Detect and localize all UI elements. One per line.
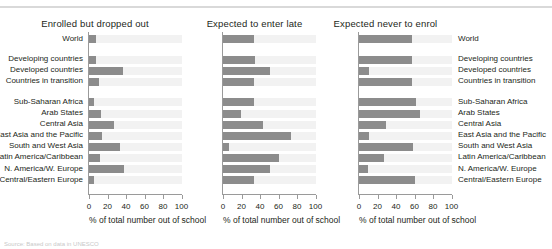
category-label: Central Asia — [458, 120, 501, 128]
x-axis-tick-label: 100 — [309, 202, 322, 211]
x-axis-tick-label: 60 — [410, 202, 419, 211]
bar — [223, 132, 291, 140]
bar — [89, 98, 94, 106]
category-label: South and West Asia — [458, 142, 532, 150]
category-label: East Asia and the Pacific — [458, 131, 546, 139]
x-axis-line — [359, 194, 452, 195]
bar — [223, 143, 229, 151]
plot-area-2: % of total number out of school 02040608… — [222, 32, 315, 195]
x-axis-tick — [260, 195, 261, 199]
category-label: Latin America/Caribbean — [0, 153, 83, 161]
category-label: Central/Eastern Europe — [458, 176, 542, 184]
category-label: Sub-Saharan Africa — [14, 98, 83, 106]
x-axis-tick — [126, 195, 127, 199]
x-axis-tick — [316, 195, 317, 199]
category-label: South and West Asia — [9, 142, 83, 150]
bar — [89, 78, 99, 86]
category-labels-right: WorldDeveloping countriesDeveloped count… — [454, 32, 552, 195]
category-label: N. America/W. Europe — [4, 165, 83, 173]
bar — [89, 176, 94, 184]
plot-area-3: % of total number out of school 02040608… — [358, 32, 451, 195]
category-label: N. America/W. Europe — [458, 165, 537, 173]
x-axis-tick-label: 0 — [221, 202, 225, 211]
x-axis-tick — [297, 195, 298, 199]
x-axis-tick — [378, 195, 379, 199]
row-band — [359, 132, 452, 140]
bar — [223, 35, 254, 43]
x-axis-tick-label: 40 — [256, 202, 265, 211]
row-band — [89, 154, 182, 162]
panel-title: Enrolled but dropped out — [0, 18, 190, 29]
category-label: Latin America/Caribbean — [458, 153, 546, 161]
panel-expected-never-to-enrol: Expected never to enrol % of total numbe… — [335, 10, 552, 235]
panel-expected-to-enter-late: Expected to enter late % of total number… — [190, 10, 335, 235]
category-label: Countries in transition — [458, 77, 535, 85]
x-axis-tick — [89, 195, 90, 199]
bar — [223, 176, 254, 184]
category-label: Countries in transition — [6, 77, 83, 85]
category-labels-left: WorldDeveloping countriesDeveloped count… — [0, 32, 86, 195]
bar — [359, 176, 415, 184]
category-label: Central Asia — [40, 120, 83, 128]
x-axis-tick-label: 40 — [122, 202, 131, 211]
panel-enrolled-but-dropped-out: Enrolled but dropped out WorldDeveloping… — [0, 10, 190, 235]
panel-title: Expected to enter late — [182, 18, 327, 29]
x-axis-tick-label: 0 — [357, 202, 361, 211]
x-axis-caption: % of total number out of school — [359, 215, 451, 225]
bar — [359, 110, 420, 118]
category-label: Arab States — [41, 109, 83, 117]
row-band — [89, 176, 182, 184]
top-divider — [0, 6, 552, 8]
bar — [223, 98, 254, 106]
bar — [359, 56, 412, 64]
bar — [223, 121, 263, 129]
x-axis-tick-label: 80 — [159, 202, 168, 211]
x-axis-tick — [359, 195, 360, 199]
x-axis-tick-label: 0 — [87, 202, 91, 211]
x-axis-tick-label: 60 — [274, 202, 283, 211]
bar — [359, 78, 412, 86]
x-axis-tick — [415, 195, 416, 199]
row-band — [89, 35, 182, 43]
chart-figure: Enrolled but dropped out WorldDeveloping… — [0, 10, 552, 235]
row-band — [223, 143, 316, 151]
category-label: World — [458, 35, 479, 43]
bar — [223, 67, 270, 75]
row-band — [89, 110, 182, 118]
row-band — [359, 67, 452, 75]
bar — [359, 35, 412, 43]
bar — [223, 56, 255, 64]
bar — [359, 98, 416, 106]
x-axis-tick — [182, 195, 183, 199]
bar — [89, 67, 123, 75]
category-label: World — [62, 35, 83, 43]
x-axis-tick-label: 20 — [237, 202, 246, 211]
x-axis-line — [223, 194, 316, 195]
x-axis-tick-label: 100 — [175, 202, 188, 211]
row-band — [89, 132, 182, 140]
x-axis-line — [89, 194, 182, 195]
x-axis-tick — [163, 195, 164, 199]
bar — [223, 165, 270, 173]
x-axis-tick-label: 60 — [140, 202, 149, 211]
bar — [89, 121, 114, 129]
x-axis-caption: % of total number out of school — [223, 215, 315, 225]
x-axis-tick-label: 40 — [392, 202, 401, 211]
x-axis-tick-label: 100 — [445, 202, 458, 211]
x-axis-caption: % of total number out of school — [89, 215, 181, 225]
bar — [359, 67, 369, 75]
row-band — [89, 78, 182, 86]
x-axis-tick — [433, 195, 434, 199]
bar — [223, 154, 279, 162]
bar — [89, 35, 96, 43]
bar — [359, 154, 384, 162]
x-axis-tick-label: 80 — [293, 202, 302, 211]
plot-area-1: % of total number out of school 02040608… — [88, 32, 181, 195]
bar — [89, 110, 101, 118]
bar — [89, 132, 102, 140]
bar — [89, 154, 100, 162]
bar — [359, 165, 368, 173]
category-label: Developed countries — [10, 66, 83, 74]
bar — [359, 143, 413, 151]
category-label: Developing countries — [458, 55, 533, 63]
